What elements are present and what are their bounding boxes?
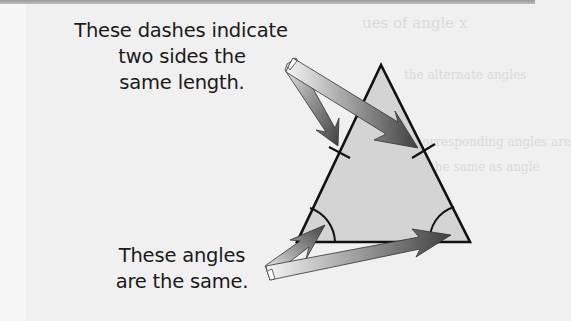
annotation-line: are the same. <box>92 269 272 295</box>
equal-sides-annotation: These dashes indicate two sides the same… <box>46 18 316 96</box>
equal-angles-annotation: These angles are the same. <box>92 243 272 295</box>
annotation-line: These angles <box>92 243 272 269</box>
annotation-line: These dashes indicate <box>46 18 316 44</box>
annotation-line: two sides the <box>46 44 316 70</box>
annotation-line: same length. <box>46 70 316 96</box>
